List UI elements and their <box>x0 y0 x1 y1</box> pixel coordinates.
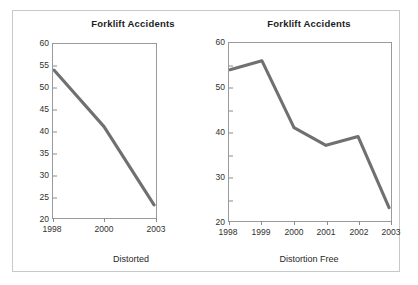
x-tick-label: 2000 <box>95 224 114 234</box>
x-tick-label: 2002 <box>350 227 369 237</box>
y-tick-label: 50 <box>216 82 225 92</box>
y-tick-label: 30 <box>40 170 49 180</box>
line-series-distortion-free <box>229 43 391 221</box>
y-tick-label: 60 <box>216 37 225 47</box>
y-tick-label: 60 <box>40 38 49 48</box>
x-tick-mark <box>156 218 157 222</box>
y-tick-label: 25 <box>40 192 49 202</box>
chart-panel-distorted: Forklift Accidents 20 25 30 35 40 45 50 … <box>13 11 209 271</box>
x-axis-label-distorted: Distorted <box>13 254 229 264</box>
x-axis-label-distortion-free: Distortion Free <box>209 254 405 264</box>
x-tick-label: 2003 <box>382 227 401 237</box>
plot-area-distortion-free <box>228 42 392 222</box>
x-tick-label: 1998 <box>219 227 238 237</box>
x-tick-label: 2001 <box>317 227 336 237</box>
x-tick-label: 1998 <box>43 224 62 234</box>
plot-area-distorted <box>52 43 157 219</box>
x-tick-label: 2000 <box>285 227 304 237</box>
x-tick-mark <box>104 218 105 222</box>
chart-title-distortion-free: Forklift Accidents <box>209 18 405 29</box>
y-tick-label: 30 <box>216 172 225 182</box>
x-tick-mark <box>53 218 54 222</box>
y-tick-label: 55 <box>40 60 49 70</box>
x-tick-mark <box>229 221 230 225</box>
chart-panel-distortion-free: Forklift Accidents 20 30 40 50 60 <box>209 11 401 271</box>
x-tick-label: 1999 <box>252 227 271 237</box>
x-tick-mark <box>261 221 262 225</box>
x-tick-mark <box>359 221 360 225</box>
y-tick-label: 45 <box>40 104 49 114</box>
x-tick-label: 2003 <box>147 224 166 234</box>
y-tick-label: 40 <box>216 127 225 137</box>
y-tick-label: 50 <box>40 82 49 92</box>
x-tick-mark <box>391 221 392 225</box>
figure-frame: Forklift Accidents 20 25 30 35 40 45 50 … <box>12 10 400 272</box>
y-tick-label: 20 <box>216 217 225 227</box>
y-tick-label: 35 <box>40 148 49 158</box>
x-tick-mark <box>294 221 295 225</box>
line-series-distorted <box>53 44 156 218</box>
x-tick-mark <box>327 221 328 225</box>
y-tick-label: 40 <box>40 126 49 136</box>
y-tick-label: 20 <box>40 214 49 224</box>
